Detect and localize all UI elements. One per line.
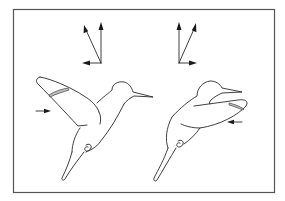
right-bird-head <box>172 81 242 117</box>
left-bird-wing-hatch <box>49 88 69 97</box>
figure-frame <box>14 10 275 193</box>
diagram-canvas <box>0 0 285 201</box>
right-bird-foot <box>177 140 183 147</box>
hummingbird-flight-diagram: Two hummingbird line drawings in hoverin… <box>0 0 285 201</box>
left-resultant-arrow-icon <box>84 25 101 63</box>
left-side-arrow-icon <box>36 109 51 113</box>
left-bird-head <box>97 82 153 104</box>
right-hummingbird <box>154 81 247 181</box>
left-bird-tail <box>62 152 84 180</box>
right-resultant-arrow-icon <box>179 23 196 63</box>
right-vector-diagram <box>177 22 198 66</box>
right-side-arrow-icon <box>227 120 242 124</box>
left-bird-body <box>72 104 124 152</box>
left-horizontal-arrow-icon <box>82 61 101 66</box>
right-bird-tail <box>154 148 176 181</box>
left-vertical-arrow-icon <box>99 22 104 63</box>
right-vertical-arrow-icon <box>177 22 182 63</box>
right-bird-wing <box>181 100 247 128</box>
left-vector-diagram <box>82 22 104 66</box>
right-bird-wing-hatch <box>229 103 244 110</box>
right-horizontal-arrow-icon <box>179 61 197 66</box>
left-bird-foot <box>85 144 91 151</box>
left-hummingbird <box>36 77 153 180</box>
left-bird-wing <box>36 77 99 126</box>
